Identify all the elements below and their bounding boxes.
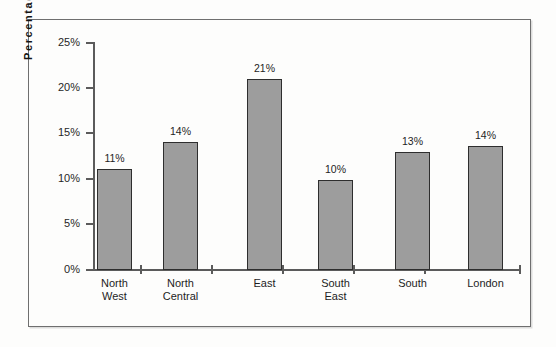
y-axis-title: Percentage of practices bbox=[22, 0, 34, 60]
y-axis-title-label: Percentage of practices bbox=[22, 0, 34, 60]
x-tick-mark-1 bbox=[211, 265, 213, 274]
bar-south-east bbox=[318, 180, 353, 270]
y-tick-label-4: 20% bbox=[40, 82, 80, 93]
y-tick-label-2: 10% bbox=[40, 173, 80, 184]
category-label-east: East bbox=[234, 277, 295, 290]
category-label-london: London bbox=[455, 277, 516, 290]
x-tick-mark-5 bbox=[519, 265, 521, 274]
category-label-north-central: North Central bbox=[150, 277, 211, 303]
y-tick-mark-0 bbox=[86, 269, 94, 271]
y-tick-mark-4 bbox=[86, 87, 94, 89]
y-tick-label-5: 25% bbox=[40, 37, 80, 48]
category-label-north-west: North West bbox=[84, 277, 145, 303]
chart-page: Percentage of practices 0% 5% 10% 15% 20… bbox=[0, 0, 556, 347]
category-label-south-east: South East bbox=[305, 277, 366, 303]
x-tick-mark-0 bbox=[140, 265, 142, 274]
bar-london bbox=[468, 146, 503, 270]
bar-north-central bbox=[163, 142, 198, 270]
x-tick-mark-2 bbox=[282, 265, 284, 274]
y-tick-mark-1 bbox=[86, 223, 94, 225]
bar-value-london: 14% bbox=[455, 129, 516, 141]
bar-value-north-central: 14% bbox=[150, 125, 211, 137]
bar-value-south: 13% bbox=[382, 135, 443, 147]
y-tick-mark-2 bbox=[86, 178, 94, 180]
y-tick-label-3: 15% bbox=[40, 127, 80, 138]
bar-north-west bbox=[97, 169, 132, 270]
y-tick-label-1: 5% bbox=[40, 218, 80, 229]
x-tick-mark-3 bbox=[353, 265, 355, 274]
y-tick-label-0: 0% bbox=[40, 264, 80, 275]
bar-chart: Percentage of practices 0% 5% 10% 15% 20… bbox=[0, 0, 556, 347]
category-label-south: South bbox=[382, 277, 443, 290]
y-tick-mark-3 bbox=[86, 132, 94, 134]
bar-value-north-west: 11% bbox=[84, 152, 145, 164]
bar-south bbox=[395, 152, 430, 270]
y-tick-mark-5 bbox=[86, 42, 94, 44]
x-axis-line bbox=[93, 269, 521, 271]
bar-value-east: 21% bbox=[234, 62, 295, 74]
bar-east bbox=[247, 79, 282, 270]
bar-value-south-east: 10% bbox=[305, 163, 366, 175]
